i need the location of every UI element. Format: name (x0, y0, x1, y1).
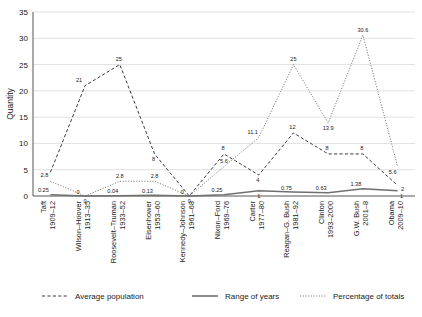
x-category-label: Reagan–G. Bush (282, 201, 291, 258)
y-tick-label: 35 (19, 8, 28, 17)
y-tick-label: 25 (19, 61, 28, 70)
x-category-label: G.W. Bush (352, 201, 361, 236)
x-category-label: Obama (387, 200, 396, 225)
legend-label: Average population (75, 292, 144, 301)
x-category-label: Kennedy–Johnson (178, 201, 187, 262)
data-label: 2.8 (40, 172, 48, 178)
data-label: 11.1 (247, 129, 257, 135)
data-label: 0.13 (142, 188, 153, 194)
data-label: 21 (76, 77, 82, 83)
chart-container: 05101520253035Quantity2125884128820.2500… (0, 0, 422, 317)
x-category-label: 2009–10 (396, 201, 405, 230)
data-label: 1.38 (350, 181, 361, 187)
x-category-label: 1993–2000 (326, 201, 335, 238)
data-label: 0.25 (38, 187, 49, 193)
x-category-label: Wilson–Hoover (74, 200, 83, 251)
data-label: 0 (77, 189, 80, 195)
data-label: 25 (290, 56, 296, 62)
x-category-label: 1961–68 (187, 201, 196, 230)
legend-label: Percentage of totals (333, 292, 404, 301)
x-category-label: Carter (248, 200, 257, 221)
data-label: 0.25 (212, 187, 223, 193)
data-label: 0.75 (281, 185, 292, 191)
data-label: 0 (181, 189, 184, 195)
data-labels-0: 212588412882 (76, 56, 404, 192)
data-label: 8 (221, 145, 224, 151)
series-line-average-population (50, 65, 397, 196)
x-category-label: Roosevelt–Truman (109, 201, 118, 263)
y-tick-label: 5 (24, 166, 29, 175)
x-category-label: Nixon–Ford (213, 201, 222, 239)
data-label: 5.6 (220, 158, 228, 164)
data-label: 0.04 (107, 188, 118, 194)
data-label: 2.8 (151, 173, 159, 179)
data-label: 0.63 (316, 185, 327, 191)
data-label: 4 (256, 177, 259, 183)
data-label: 8 (360, 145, 363, 151)
data-label: 1 (400, 193, 403, 199)
y-tick-label: 10 (19, 139, 28, 148)
line-chart: 05101520253035Quantity2125884128820.2500… (0, 0, 422, 317)
x-category-label: Eisenhower (144, 200, 153, 239)
x-category-label: 1913–35 (83, 201, 92, 230)
x-category-label: 1981–92 (291, 201, 300, 230)
y-tick-label: 0 (24, 192, 29, 201)
y-tick-label: 20 (19, 87, 28, 96)
y-tick-label: 15 (19, 113, 28, 122)
y-tick-label: 30 (19, 34, 28, 43)
chart-legend: Average populationRange of yearsPercenta… (42, 292, 404, 301)
x-category-label: 1909–12 (48, 201, 57, 230)
data-label: 13.9 (323, 125, 334, 131)
data-label: 8 (326, 145, 329, 151)
data-label: 25 (116, 56, 122, 62)
x-category-label: 1953–60 (153, 201, 162, 230)
x-category-labels: Taft1909–12Wilson–Hoover1913–35Roosevelt… (39, 200, 404, 263)
data-label: 2 (401, 186, 404, 192)
data-label: 2.8 (116, 173, 124, 179)
x-category-label: 2001–8 (361, 201, 370, 226)
data-label: 5.6 (389, 169, 397, 175)
data-label: 30.6 (357, 27, 368, 33)
data-labels-2: 2.802.82.805.611.12513.930.65.6 (40, 27, 396, 204)
series-line-range-of-years (50, 189, 397, 196)
y-axis-title: Quantity (5, 87, 15, 119)
series-line-percentage-of-totals (50, 35, 397, 196)
x-category-label: Clinton (317, 201, 326, 224)
data-label: 8 (152, 156, 155, 162)
x-category-label: 1933–52 (118, 201, 127, 230)
x-category-label: Taft (39, 201, 48, 213)
data-label: 12 (289, 124, 295, 130)
legend-label: Range of years (225, 292, 279, 301)
data-label: 1 (257, 193, 260, 199)
x-category-label: 1969–76 (222, 201, 231, 230)
x-category-label: 1977–80 (257, 201, 266, 230)
